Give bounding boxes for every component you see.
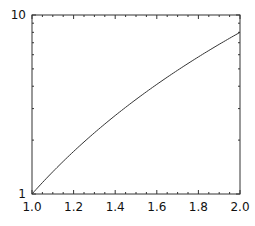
x-tick-label: 2.0 [230,200,249,214]
x-tick-label: 1.0 [22,200,41,214]
x-tick-label: 1.6 [147,200,166,214]
plot-frame [32,15,240,194]
x-tick-label: 1.2 [64,200,83,214]
x-tick-label: 1.4 [106,200,125,214]
tick-labels: 1.01.21.41.61.82.0110 [11,8,250,214]
y-tick-label: 1 [18,187,26,201]
y-tick-label: 10 [11,8,26,22]
data-line [32,32,240,194]
x-tick-label: 1.8 [189,200,208,214]
plot-area [32,15,240,194]
line-chart: 1.01.21.41.61.82.0110 [0,0,255,226]
